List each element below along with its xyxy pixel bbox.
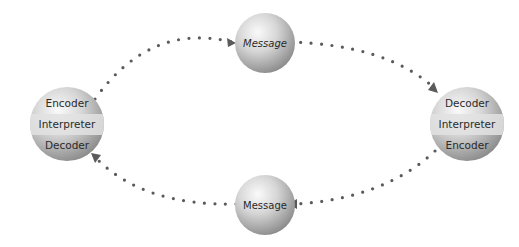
arrow-right-to-bottom-message (288, 151, 435, 209)
left-decoder-label: Decoder (45, 139, 90, 151)
bottom-message-sphere: Message (235, 175, 295, 235)
arrowhead-icon (227, 38, 236, 47)
top-message-sphere: Message (235, 13, 295, 73)
top-message-label: Message (243, 38, 287, 49)
right-encoder-label: Encoder (446, 139, 490, 151)
left-interpreter-label: Interpreter (39, 118, 96, 130)
arrow-top-message-to-right (290, 42, 438, 93)
bottom-message-label: Message (243, 200, 287, 211)
right-interpreter-label: Interpreter (439, 118, 496, 130)
communication-cycle-diagram: Encoder Interpreter Decoder Decoder Inte… (0, 0, 519, 247)
arrow-left-to-top-message (95, 38, 236, 99)
arrow-bottom-message-to-left (91, 153, 236, 204)
left-encoder-label: Encoder (46, 97, 90, 109)
right-party-sphere: Decoder Interpreter Encoder (428, 87, 506, 161)
right-decoder-label: Decoder (445, 97, 490, 109)
